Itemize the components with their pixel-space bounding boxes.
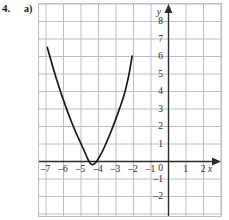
y-tick-label: 3	[158, 104, 163, 114]
y-tick-label: –1	[153, 174, 164, 184]
parabola-curve	[47, 47, 132, 164]
x-tick-label: –1	[145, 164, 156, 174]
origin-label: 0	[158, 163, 163, 173]
x-tick-label: –4	[92, 164, 103, 174]
y-tick-label: 2	[158, 121, 163, 131]
y-axis-name: y	[156, 7, 162, 17]
plot-border	[39, 4, 222, 217]
x-tick-label: –7	[40, 164, 51, 174]
x-axis-arrowhead	[212, 158, 221, 166]
grid-lines	[38, 3, 222, 217]
x-tick-label: 1	[183, 164, 188, 174]
y-tick-label: –2	[153, 191, 164, 201]
coordinate-plot: –7–6–5–4–3–2–112–2–1123456780 yx	[38, 3, 222, 217]
x-tick-label: 2	[201, 164, 206, 174]
data-curve	[47, 47, 132, 164]
x-tick-label: –2	[127, 164, 138, 174]
y-tick-label: 6	[158, 51, 163, 61]
y-tick-label: 4	[158, 86, 163, 96]
question-number: 4.	[2, 2, 10, 14]
x-tick-label: –6	[57, 164, 68, 174]
y-tick-label: 7	[158, 34, 163, 44]
y-tick-label: 5	[158, 69, 163, 79]
y-tick-label: 8	[158, 16, 163, 26]
x-tick-label: –5	[75, 164, 86, 174]
x-tick-label: –3	[110, 164, 121, 174]
y-axis-arrowhead	[165, 4, 173, 13]
x-axis-name: x	[207, 164, 213, 174]
worksheet-page: 4. a) –7–6–5–4–3–2–112–2–1123456780 yx	[0, 0, 229, 220]
graph-svg: –7–6–5–4–3–2–112–2–1123456780 yx	[38, 3, 222, 217]
question-part-label: a)	[24, 3, 32, 14]
axes	[38, 4, 221, 217]
y-tick-label: 1	[158, 139, 163, 149]
axis-names: yx	[156, 7, 213, 174]
